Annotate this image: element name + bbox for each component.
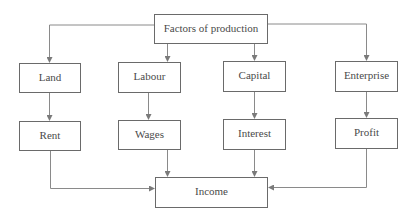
node-label: Income (195, 186, 228, 197)
node-label: Labour (134, 71, 166, 82)
node-label: Factors of production (164, 23, 259, 34)
node-factors-of-production: Factors of production (154, 14, 268, 44)
node-label: Rent (40, 130, 61, 141)
node-label: Interest (238, 128, 271, 139)
node-income: Income (155, 177, 268, 208)
node-label: Wages (135, 129, 164, 140)
node-label: Capital (239, 70, 271, 81)
node-interest: Interest (223, 119, 286, 150)
edge-factors-enterprise (268, 24, 367, 60)
factors-of-production-diagram: Factors of production Land Labour Capita… (0, 0, 414, 216)
edge-factors-land (50, 25, 155, 62)
node-label: Enterprise (344, 70, 389, 81)
node-wages: Wages (118, 120, 181, 150)
node-enterprise: Enterprise (335, 61, 398, 92)
node-rent: Rent (19, 121, 81, 151)
edge-rent-income (51, 150, 155, 189)
edge-profit-income (269, 148, 367, 188)
node-labour: Labour (118, 62, 181, 93)
node-label: Profit (354, 127, 379, 138)
node-profit: Profit (335, 118, 398, 149)
node-capital: Capital (223, 61, 286, 92)
node-land: Land (19, 63, 81, 93)
node-label: Land (39, 72, 62, 83)
